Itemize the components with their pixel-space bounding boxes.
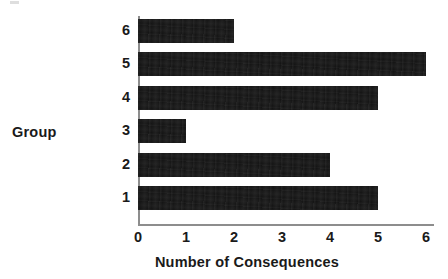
bar-group-6 — [138, 19, 234, 43]
y-tick-label-3: 3 — [106, 122, 130, 138]
x-tick-label-3: 3 — [269, 229, 295, 245]
x-tick-label-6: 6 — [413, 229, 439, 245]
bar-chart: Group 654321 0123456 Number of Consequen… — [0, 0, 448, 279]
bar-fill — [138, 186, 378, 210]
x-tick-label-5: 5 — [365, 229, 391, 245]
y-tick-label-1: 1 — [106, 189, 130, 205]
x-tick-label-4: 4 — [317, 229, 343, 245]
bar-group-3 — [138, 119, 186, 143]
bar-fill — [138, 153, 330, 177]
scan-artifact — [10, 1, 19, 4]
bar-group-5 — [138, 52, 426, 76]
x-axis-title: Number of Consequences — [0, 254, 448, 270]
bar-group-1 — [138, 186, 378, 210]
x-axis-line — [138, 224, 434, 226]
y-tick-label-5: 5 — [106, 55, 130, 71]
bar-group-2 — [138, 153, 330, 177]
y-axis-title: Group — [12, 124, 57, 140]
y-tick-label-4: 4 — [106, 89, 130, 105]
bar-fill — [138, 119, 186, 143]
bar-fill — [138, 19, 234, 43]
bar-fill — [138, 52, 426, 76]
bar-fill — [138, 86, 378, 110]
x-tick-label-2: 2 — [221, 229, 247, 245]
bar-group-4 — [138, 86, 378, 110]
x-tick-label-0: 0 — [125, 229, 151, 245]
y-tick-label-6: 6 — [106, 22, 130, 38]
y-tick-label-2: 2 — [106, 156, 130, 172]
x-tick-label-1: 1 — [173, 229, 199, 245]
